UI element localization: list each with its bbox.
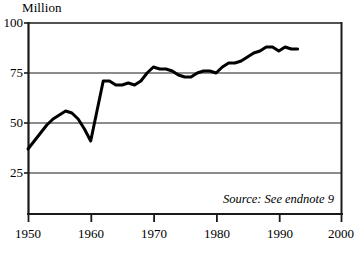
- x-tick-label: 1970: [141, 226, 167, 241]
- gridlines: [28, 23, 342, 173]
- x-tick-label: 1960: [78, 226, 104, 241]
- line-chart-plot: 100 75 50 25 1950 1960 1970 1980 1990 20…: [0, 0, 359, 254]
- y-tick-label: 75: [10, 65, 23, 80]
- x-tick-label: 1980: [204, 226, 230, 241]
- source-annotation: Source: See endnote 9: [223, 192, 335, 206]
- x-axis-ticks: [29, 214, 342, 222]
- data-series-line: [28, 47, 298, 149]
- x-axis-tick-labels: 1950 1960 1970 1980 1990 2000: [15, 226, 354, 241]
- y-tick-label: 50: [10, 115, 23, 130]
- x-tick-label: 1950: [15, 226, 41, 241]
- chart-figure: Million 100 75 50 25: [0, 0, 359, 254]
- x-tick-label: 2000: [328, 226, 354, 241]
- y-tick-label: 25: [10, 165, 23, 180]
- y-tick-label: 100: [4, 15, 24, 30]
- y-axis-tick-labels: 100 75 50 25: [4, 15, 24, 180]
- x-tick-label: 1990: [267, 226, 293, 241]
